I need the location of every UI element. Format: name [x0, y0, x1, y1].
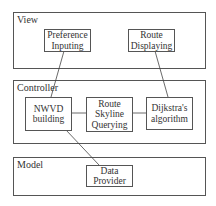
dijkstras-algorithm-box: Dijkstra's algorithm — [146, 97, 193, 130]
route-displaying-label: Route Displaying — [131, 30, 173, 51]
route-displaying-box: Route Displaying — [128, 29, 175, 52]
route-skyline-querying-box: Route Skyline Querying — [86, 97, 133, 132]
connector-nwvd-to-data-provider — [66, 130, 99, 165]
route-skyline-querying-label: Route Skyline Querying — [92, 99, 128, 131]
nwvd-building-label: NWVD building — [33, 104, 65, 125]
connector-display-to-dijkstra — [155, 51, 168, 97]
dijkstras-algorithm-label: Dijkstra's algorithm — [151, 103, 188, 124]
data-provider-label: Data Provider — [93, 166, 126, 187]
preference-inputing-box: Preference Inputing — [44, 29, 91, 52]
nwvd-building-box: NWVD building — [25, 97, 72, 131]
data-provider-box: Data Provider — [86, 165, 133, 187]
connector-preference-to-nwvd — [51, 51, 64, 97]
preference-inputing-label: Preference Inputing — [47, 30, 88, 51]
